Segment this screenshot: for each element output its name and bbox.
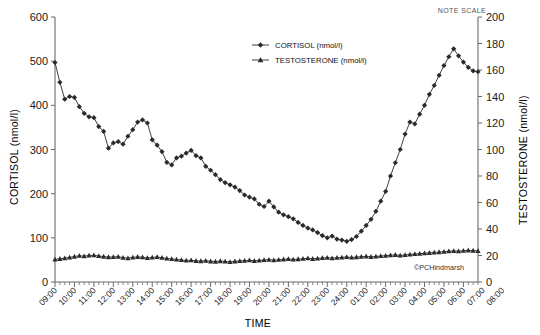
data-point-marker (393, 160, 398, 165)
chart-container: 0100200300400500600 02040608010012014016… (0, 0, 540, 335)
data-point-marker (135, 254, 140, 259)
legend-item-cortisol[interactable]: CORTISOL (nmol/l) (252, 41, 343, 50)
y-axis-right-tick-label: 120 (486, 117, 504, 129)
data-point-marker (437, 73, 442, 78)
data-point-marker (422, 103, 427, 108)
data-point-marker (427, 92, 432, 97)
data-point-marker (198, 155, 203, 160)
x-axis-tick-label: 09:00 (37, 285, 59, 307)
y-axis-right-tick-label: 140 (486, 91, 504, 103)
data-point-marker (398, 147, 403, 152)
x-axis-tick-label: 17:00 (192, 285, 214, 307)
data-point-marker (305, 226, 310, 231)
data-point-marker (227, 182, 232, 187)
x-axis-tick-label: 03:00 (387, 285, 409, 307)
y-axis-right: 020406080100120140160180200 (478, 11, 504, 288)
x-axis-tick-label: 24:00 (329, 285, 351, 307)
x-axis-tick-label: 22:00 (290, 285, 312, 307)
legend-item-testosterone[interactable]: TESTOSTERONE (nmol/l) (252, 56, 367, 65)
x-axis-tick-label: 21:00 (270, 285, 292, 307)
x-axis-title: TIME (245, 317, 271, 329)
x-axis-tick-label: 05:00 (426, 285, 448, 307)
data-point-marker (417, 112, 422, 117)
data-point-marker (393, 252, 398, 257)
x-axis-ticks: 09:0010:0011:0012:0013:0014:0015:0016:00… (37, 282, 507, 307)
x-axis-tick-label: 16:00 (173, 285, 195, 307)
data-point-marker (203, 258, 208, 263)
data-point-marker (184, 150, 189, 155)
data-point-marker (179, 154, 184, 159)
y-axis-left-ticks: 0100200300400500600 (30, 11, 55, 288)
data-point-marker (334, 237, 339, 242)
data-point-marker (145, 120, 150, 125)
data-point-marker (281, 212, 286, 217)
data-point-marker (77, 253, 82, 258)
data-point-marker (164, 160, 169, 165)
data-point-marker (266, 257, 271, 262)
x-axis-tick-label: 12:00 (95, 285, 117, 307)
data-point-marker (286, 214, 291, 219)
data-point-marker (344, 239, 349, 244)
x-axis-tick-label: 06:00 (445, 285, 467, 307)
series-plot-area (52, 46, 480, 264)
series-line (55, 49, 478, 242)
data-point-marker (67, 94, 72, 99)
data-point-marker (300, 223, 305, 228)
y-axis-left-tick-label: 200 (30, 188, 48, 200)
x-axis-tick-label: 08:00 (484, 285, 506, 307)
data-point-marker (247, 195, 252, 200)
data-point-marker (174, 155, 179, 160)
legend-label: CORTISOL (nmol/l) (275, 41, 343, 50)
data-point-marker (451, 46, 456, 51)
y-axis-right-tick-label: 200 (486, 11, 504, 23)
y-axis-right-tick-label: 60 (486, 197, 498, 209)
data-point-marker (116, 139, 121, 144)
data-point-marker (286, 256, 291, 261)
data-point-marker (218, 258, 223, 263)
series-testosterone (52, 248, 480, 264)
data-point-marker (349, 237, 354, 242)
data-point-marker (325, 255, 330, 260)
data-point-marker (407, 120, 412, 125)
data-point-marker (330, 233, 335, 238)
x-axis-tick-label: 07:00 (465, 285, 487, 307)
y-axis-right-tick-label: 180 (486, 38, 504, 50)
data-point-marker (258, 42, 264, 48)
data-point-marker (364, 254, 369, 259)
data-point-marker (320, 233, 325, 238)
y-axis-right-ticks: 020406080100120140160180200 (478, 11, 504, 288)
data-point-marker (378, 199, 383, 204)
x-axis-tick-label: 18:00 (212, 285, 234, 307)
data-point-marker (402, 131, 407, 136)
x-axis-tick-label: 15:00 (153, 285, 175, 307)
data-point-marker (383, 189, 388, 194)
data-point-marker (305, 256, 310, 261)
data-point-marker (446, 54, 451, 59)
y-axis-left-tick-label: 600 (30, 11, 48, 23)
data-point-marker (315, 230, 320, 235)
data-point-marker (135, 120, 140, 125)
legend-label: TESTOSTERONE (nmol/l) (275, 56, 367, 65)
y-axis-left-tick-label: 400 (30, 99, 48, 111)
x-axis-tick-label: 13:00 (115, 285, 137, 307)
data-point-marker (373, 209, 378, 214)
y-axis-right-tick-label: 0 (486, 276, 492, 288)
data-point-marker (169, 162, 174, 167)
x-axis-tick-label: 14:00 (134, 285, 156, 307)
x-axis-tick-label: 19:00 (231, 285, 253, 307)
data-point-marker (72, 95, 77, 100)
data-point-marker (310, 227, 315, 232)
y-axis-left-tick-label: 300 (30, 144, 48, 156)
x-axis-tick-label: 10:00 (56, 285, 78, 307)
x-axis-tick-label: 20:00 (251, 285, 273, 307)
data-point-marker (91, 115, 96, 120)
data-point-marker (441, 63, 446, 68)
data-point-marker (62, 97, 67, 102)
note-scale-annotation: NOTE SCALE (438, 7, 486, 14)
cortisol-testosterone-chart: 0100200300400500600 02040608010012014016… (0, 0, 540, 335)
data-point-marker (247, 258, 252, 263)
x-axis-tick-label: 02:00 (367, 285, 389, 307)
data-point-marker (120, 142, 125, 147)
y-axis-left-tick-label: 500 (30, 55, 48, 67)
y-axis-right-title: TESTOSTERONE (nmol/l) (517, 95, 529, 225)
